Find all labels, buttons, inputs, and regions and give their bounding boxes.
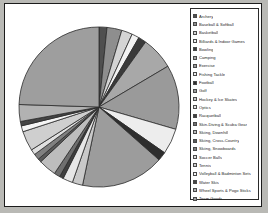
legend-item-label: Golf (199, 88, 207, 93)
legend-item[interactable]: Volleyball & Badminton Sets (193, 170, 257, 178)
legend-item[interactable]: Football (193, 78, 257, 86)
legend-item-label: Team Goods (199, 196, 222, 201)
legend-item[interactable]: Skiing, Cross-Country (193, 136, 257, 144)
chart-legend: ArcheryBaseball & SoftballBasketballBill… (190, 8, 259, 200)
legend-item[interactable]: Team Goods (193, 195, 257, 203)
legend-item-label: Water Skis (199, 180, 219, 185)
legend-swatch-icon (193, 64, 197, 68)
legend-swatch-icon (193, 72, 197, 76)
legend-item-label: Skiing, Snowboards (199, 146, 236, 151)
legend-swatch-icon (193, 188, 197, 192)
legend-item-label: Skiing, Downhill (199, 130, 228, 135)
legend-swatch-icon (193, 197, 197, 201)
legend-swatch-icon (193, 163, 197, 167)
legend-swatch-icon (193, 14, 197, 18)
legend-item[interactable]: Basketball (193, 29, 257, 37)
legend-swatch-icon (193, 105, 197, 109)
legend-item[interactable]: Soccer Balls (193, 153, 257, 161)
legend-swatch-icon (193, 22, 197, 26)
legend-swatch-icon (193, 47, 197, 51)
legend-swatch-icon (193, 31, 197, 35)
legend-item-label: Football (199, 80, 214, 85)
pie-chart (18, 26, 180, 188)
legend-item[interactable]: Bowling (193, 45, 257, 53)
legend-item-label: Optics (199, 105, 211, 110)
legend-swatch-icon (193, 56, 197, 60)
legend-item-label: Basketball (199, 30, 218, 35)
legend-item-label: Baseball & Softball (199, 22, 234, 27)
legend-item-label: Skiing, Cross-Country (199, 138, 239, 143)
legend-item[interactable]: Skin-Diving & Scuba Gear (193, 120, 257, 128)
legend-item[interactable]: Optics (193, 103, 257, 111)
legend-swatch-icon (193, 97, 197, 101)
legend-item[interactable]: Skiing, Downhill (193, 128, 257, 136)
legend-item[interactable]: Camping (193, 53, 257, 61)
legend-swatch-icon (193, 89, 197, 93)
legend-swatch-icon (193, 114, 197, 118)
legend-swatch-icon (193, 180, 197, 184)
legend-item[interactable]: Racquetball (193, 112, 257, 120)
legend-item[interactable]: Wheel Sports & Pogo Sticks (193, 186, 257, 194)
legend-item-label: Skin-Diving & Scuba Gear (199, 122, 247, 127)
legend-item[interactable]: Tennis (193, 161, 257, 169)
legend-item-label: Archery (199, 14, 213, 19)
legend-item[interactable]: Hockey & Ice Skates (193, 95, 257, 103)
legend-item-label: Fishing Tackle (199, 72, 225, 77)
legend-item-label: Racquetball (199, 113, 221, 118)
legend-item[interactable]: Baseball & Softball (193, 20, 257, 28)
legend-swatch-icon (193, 147, 197, 151)
pie-svg (18, 26, 180, 188)
legend-item-label: Exercise (199, 63, 215, 68)
legend-item-label: Hockey & Ice Skates (199, 97, 237, 102)
legend-swatch-icon (193, 130, 197, 134)
legend-item[interactable]: Golf (193, 87, 257, 95)
legend-item[interactable]: Skiing, Snowboards (193, 145, 257, 153)
legend-item[interactable]: Billiards & Indoor Games (193, 37, 257, 45)
legend-swatch-icon (193, 39, 197, 43)
legend-swatch-icon (193, 155, 197, 159)
legend-swatch-icon (193, 81, 197, 85)
legend-item-label: Camping (199, 55, 216, 60)
legend-swatch-icon (193, 122, 197, 126)
chart-figure: ArcheryBaseball & SoftballBasketballBill… (4, 3, 262, 207)
legend-item-label: Soccer Balls (199, 155, 222, 160)
legend-item[interactable]: Archery (193, 12, 257, 20)
pie-plot-area (5, 4, 187, 206)
legend-swatch-icon (193, 172, 197, 176)
legend-item-label: Wheel Sports & Pogo Sticks (199, 188, 251, 193)
legend-item[interactable]: Water Skis (193, 178, 257, 186)
legend-item-label: Tennis (199, 163, 211, 168)
legend-item-label: Billiards & Indoor Games (199, 39, 245, 44)
legend-item[interactable]: Fishing Tackle (193, 70, 257, 78)
legend-item-label: Bowling (199, 47, 213, 52)
legend-swatch-icon (193, 139, 197, 143)
legend-item-label: Volleyball & Badminton Sets (199, 171, 251, 176)
legend-item[interactable]: Exercise (193, 62, 257, 70)
pie-slice (19, 27, 99, 107)
